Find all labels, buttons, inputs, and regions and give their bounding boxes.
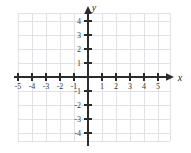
x-tick-label: -2 xyxy=(57,82,64,91)
x-tick-label: -3 xyxy=(43,82,50,91)
y-tick-label: -2 xyxy=(74,101,81,110)
x-tick-label: 2 xyxy=(114,82,118,91)
y-tick-label: -4 xyxy=(74,129,81,138)
y-tick-label: -3 xyxy=(74,115,81,124)
y-tick-label: 4 xyxy=(77,17,81,26)
y-tick-label: 1 xyxy=(77,59,81,68)
x-tick-label: 3 xyxy=(128,82,132,91)
x-tick-label: -5 xyxy=(15,82,22,91)
y-tick-label: 2 xyxy=(77,45,81,54)
y-tick-label: -1 xyxy=(74,87,81,96)
x-tick-label: 5 xyxy=(156,82,160,91)
y-axis-label: y xyxy=(91,2,97,13)
x-tick-label: 1 xyxy=(100,82,104,91)
x-axis-label: x xyxy=(177,72,183,83)
x-tick-label: 4 xyxy=(142,82,146,91)
coordinate-plane-figure: -5 -4 -3 -2 -1 1 2 3 4 5 4 3 2 1 -1 -2 -… xyxy=(0,0,191,153)
coordinate-plane-svg: -5 -4 -3 -2 -1 1 2 3 4 5 4 3 2 1 -1 -2 -… xyxy=(0,0,191,153)
y-tick-label: 3 xyxy=(77,31,81,40)
x-tick-label: -4 xyxy=(29,82,36,91)
